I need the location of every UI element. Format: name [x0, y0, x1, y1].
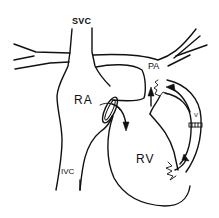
label-svc: SVC [72, 17, 91, 26]
label-rv: RV [136, 153, 154, 165]
heart-drawing [0, 0, 219, 218]
left-vessel-upper [14, 44, 70, 53]
heart-diagram: SVC PA RA RV IVC V [0, 0, 219, 218]
pa-branch-3 [168, 55, 190, 66]
label-pa: PA [148, 62, 159, 71]
ra-rv-septum [80, 116, 112, 190]
label-ra: RA [74, 94, 93, 106]
left-vessel-fork [14, 56, 34, 60]
svc-right-wall [92, 28, 110, 86]
label-valve: V [194, 112, 198, 118]
pa-inner-loop [96, 65, 145, 101]
tricuspid-valve-outer [100, 95, 121, 125]
pa-top-wall [93, 29, 196, 60]
arrow-conduit-upper-head [166, 84, 175, 91]
left-vessel-lower [15, 62, 69, 69]
arrow-ra-to-rv-head [123, 122, 129, 131]
arrow-up-to-pa-head [148, 87, 154, 96]
rv-anastomosis [166, 162, 176, 180]
label-ivc: IVC [61, 168, 74, 176]
